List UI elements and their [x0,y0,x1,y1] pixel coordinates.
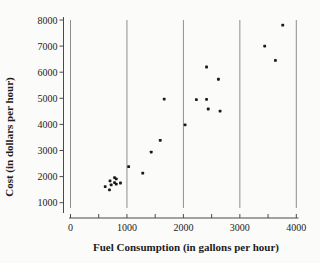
data-point-9 [219,110,222,113]
data-point-2 [274,59,277,62]
y-tick-label: 6000 [38,67,58,78]
data-point-23 [104,185,107,188]
data-point-20 [110,184,113,187]
data-point-8 [207,108,210,111]
y-tick-label: 3000 [38,145,58,156]
data-point-10 [184,124,187,127]
data-point-22 [108,189,111,192]
data-point-12 [150,151,153,154]
x-tick-label: 4000 [286,222,306,233]
data-point-14 [141,172,144,175]
y-tick-label: 7000 [38,41,58,52]
data-point-3 [205,66,208,69]
scatter-plot: 1000200030004000500060007000800001000200… [0,0,320,263]
x-axis-title: Fuel Consumption (in gallons per hour) [93,241,279,254]
x-tick-label: 1000 [117,222,137,233]
data-point-13 [127,165,130,168]
x-tick-label: 0 [68,222,73,233]
data-point-18 [113,176,116,179]
scatter-figure: 1000200030004000500060007000800001000200… [0,0,320,263]
data-point-21 [109,179,112,182]
y-tick-label: 8000 [38,15,58,26]
data-point-6 [195,98,198,101]
data-point-4 [217,78,220,81]
chart-layer: 1000200030004000500060007000800001000200… [38,15,307,234]
y-tick-label: 2000 [38,171,58,182]
data-point-0 [281,24,284,27]
y-tick-label: 5000 [38,93,58,104]
data-point-19 [113,181,116,184]
data-point-1 [263,45,266,48]
y-axis-title: Cost (in dollars per hour) [3,77,16,197]
data-point-11 [159,139,162,142]
x-tick-label: 3000 [230,222,250,233]
y-tick-label: 1000 [38,197,58,208]
data-point-7 [205,98,208,101]
y-tick-label: 4000 [38,119,58,130]
data-point-15 [119,182,122,185]
data-point-5 [163,98,166,101]
x-tick-label: 2000 [173,222,193,233]
